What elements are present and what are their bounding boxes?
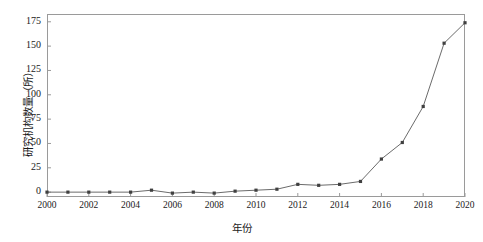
y-tick-label: 100 [3, 88, 41, 99]
x-tick-label: 2012 [275, 200, 321, 210]
x-tick-label: 2016 [358, 200, 404, 210]
x-tick-label: 2008 [191, 200, 237, 210]
x-tick-label: 2004 [108, 200, 154, 210]
chart-figure: 研究机构数量（所） 0255075100125150175 2000200220… [0, 0, 483, 242]
x-tick-label: 2002 [66, 200, 112, 210]
x-axis-title: 年份 [0, 220, 483, 235]
x-tick-label: 2000 [24, 200, 70, 210]
x-tick-label: 2018 [400, 200, 446, 210]
x-tick-label: 2014 [317, 200, 363, 210]
y-tick-label: 75 [3, 112, 41, 123]
y-tick-label: 150 [3, 39, 41, 50]
y-tick-label: 175 [3, 15, 41, 26]
x-tick-label: 2020 [442, 200, 483, 210]
y-tick-label: 50 [3, 136, 41, 147]
y-tick-label: 0 [3, 185, 41, 196]
y-tick-label: 25 [3, 161, 41, 172]
x-tick-label: 2010 [233, 200, 279, 210]
x-tick-label: 2006 [149, 200, 195, 210]
plot-area [47, 14, 465, 197]
y-tick-label: 125 [3, 63, 41, 74]
